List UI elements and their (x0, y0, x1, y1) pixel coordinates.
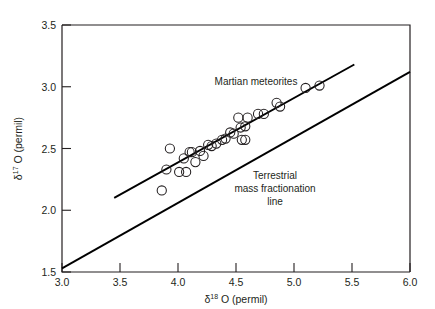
x-tick-label-4: 5.0 (287, 276, 302, 288)
x-tick-label-6: 6.0 (403, 276, 418, 288)
x-tick-label-3: 4.5 (229, 276, 244, 288)
y-tick-label-2: 2.5 (41, 143, 56, 155)
chart-canvas: 3.5 3.0 2.5 2.0 1.5 3.0 3.5 4.0 4.5 5.0 … (0, 0, 435, 309)
x-tick-label-2: 4.0 (171, 276, 186, 288)
chart-background (0, 0, 435, 309)
y-tick-label-1: 3.0 (41, 81, 56, 93)
terrestrial-annotation-line-3: line (267, 196, 283, 207)
y-tick-label-0: 3.5 (41, 19, 56, 31)
martian-meteorites-annotation: Martian meteorites (215, 76, 298, 87)
x-axis-title-rest: O (permil) (218, 293, 268, 305)
x-axis-title-superscript: 18 (210, 293, 218, 300)
terrestrial-annotation-line-1: Terrestrial (253, 170, 297, 181)
terrestrial-annotation-line-2: mass fractionation (234, 183, 315, 194)
x-tick-label-0: 3.0 (55, 276, 70, 288)
y-axis-title-rest: O (permil) (12, 117, 24, 167)
x-tick-label-5: 5.5 (345, 276, 360, 288)
oxygen-isotope-scatter-figure: 3.5 3.0 2.5 2.0 1.5 3.0 3.5 4.0 4.5 5.0 … (0, 0, 435, 309)
y-tick-label-3: 2.0 (41, 204, 56, 216)
y-axis-title-superscript: 17 (12, 166, 19, 174)
x-tick-label-1: 3.5 (113, 276, 128, 288)
